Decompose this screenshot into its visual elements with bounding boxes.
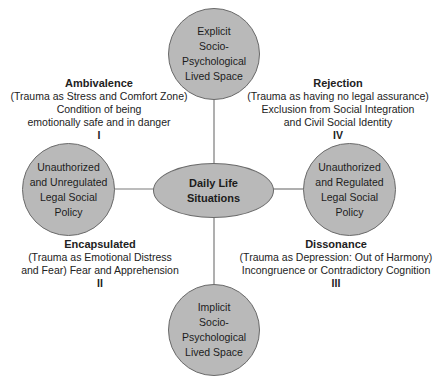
diagram-canvas: Explicit Socio- Psychological Lived Spac… bbox=[0, 0, 440, 383]
quadrant-rejection: Rejection (Trauma as having no legal ass… bbox=[236, 77, 440, 142]
node-unregulated-policy: Unauthorized and Unregulated Legal Socia… bbox=[22, 143, 115, 236]
quadrant-numeral: II bbox=[8, 277, 192, 290]
node-implicit-label: Implicit Socio- Psychological Lived Spac… bbox=[182, 300, 246, 360]
quadrant-numeral: IV bbox=[236, 129, 440, 142]
quadrant-line: Incongruence or Contradictory Cognition bbox=[232, 264, 440, 277]
node-unregulated-label: Unauthorized and Unregulated Legal Socia… bbox=[30, 160, 108, 220]
node-implicit-lived-space: Implicit Socio- Psychological Lived Spac… bbox=[168, 284, 260, 376]
quadrant-line: emotionally safe and in danger bbox=[4, 116, 194, 129]
quadrant-title: Rejection bbox=[236, 77, 440, 90]
quadrant-line: Exclusion from Social Integration bbox=[236, 103, 440, 116]
node-regulated-label: Unauthorized and Regulated Legal Social … bbox=[315, 160, 383, 220]
quadrant-encapsulated: Encapsulated (Trauma as Emotional Distre… bbox=[8, 238, 192, 290]
quadrant-ambivalence: Ambivalence (Trauma as Stress and Comfor… bbox=[4, 77, 194, 142]
quadrant-numeral: I bbox=[4, 129, 194, 142]
quadrant-line: (Trauma as Emotional Distress bbox=[8, 251, 192, 264]
quadrant-line: (Trauma as Stress and Comfort Zone) bbox=[4, 90, 194, 103]
node-regulated-policy: Unauthorized and Regulated Legal Social … bbox=[303, 143, 396, 236]
quadrant-title: Ambivalence bbox=[4, 77, 194, 90]
quadrant-line: (Trauma as Depression: Out of Harmony) bbox=[232, 251, 440, 264]
quadrant-line: (Trauma as having no legal assurance) bbox=[236, 90, 440, 103]
quadrant-dissonance: Dissonance (Trauma as Depression: Out of… bbox=[232, 238, 440, 290]
quadrant-title: Encapsulated bbox=[8, 238, 192, 251]
center-label: Daily Life Situations bbox=[187, 176, 240, 206]
quadrant-line: and Fear) Fear and Apprehension bbox=[8, 264, 192, 277]
quadrant-line: Condition of being bbox=[4, 103, 194, 116]
node-explicit-label: Explicit Socio- Psychological Lived Spac… bbox=[182, 24, 246, 84]
node-daily-life-situations: Daily Life Situations bbox=[153, 163, 274, 218]
quadrant-title: Dissonance bbox=[232, 238, 440, 251]
quadrant-numeral: III bbox=[232, 277, 440, 290]
quadrant-line: and Civil Social Identity bbox=[236, 116, 440, 129]
